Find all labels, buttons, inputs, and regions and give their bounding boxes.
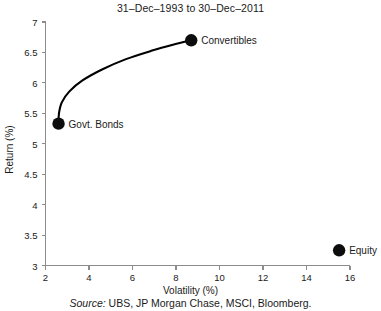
source-note: Source: UBS, JP Morgan Chase, MSCI, Bloo… (0, 297, 381, 309)
x-tick-label: 16 (345, 272, 356, 283)
plot-area (0, 0, 381, 311)
y-tick-label: 7 (0, 17, 38, 28)
x-axis-title: Volatility (%) (0, 285, 381, 296)
x-tick-label: 12 (258, 272, 269, 283)
y-tick-label: 4 (0, 199, 38, 210)
data-point-marker[interactable] (333, 244, 345, 256)
efficient-frontier-curve (59, 40, 192, 123)
source-value: UBS, JP Morgan Chase, MSCI, Bloomberg. (109, 297, 312, 309)
data-point-markers (52, 34, 345, 256)
x-tick-label: 2 (43, 272, 48, 283)
y-tick-label: 6.5 (0, 47, 38, 58)
axis-lines (46, 22, 351, 266)
x-tick-label: 14 (301, 272, 312, 283)
source-label: Source: (70, 297, 106, 309)
y-tick-label: 3.5 (0, 230, 38, 241)
data-point-label: Convertibles (201, 35, 257, 46)
chart-container: 31–Dec–1993 to 30–Dec–2011 33.544.555.56… (0, 0, 381, 311)
axes (42, 22, 351, 270)
y-axis-title: Return (%) (4, 110, 15, 190)
data-point-marker[interactable] (52, 117, 64, 129)
data-point-label: Govt. Bonds (69, 118, 124, 129)
x-tick-label: 4 (86, 272, 91, 283)
y-tick-label: 3 (0, 260, 38, 271)
x-axis-ticks (46, 266, 351, 270)
x-tick-label: 6 (130, 272, 135, 283)
x-tick-label: 8 (173, 272, 178, 283)
y-axis-ticks (42, 22, 46, 266)
data-point-marker[interactable] (185, 34, 197, 46)
x-tick-label: 10 (214, 272, 225, 283)
y-tick-label: 6 (0, 77, 38, 88)
data-point-label: Equity (349, 245, 377, 256)
